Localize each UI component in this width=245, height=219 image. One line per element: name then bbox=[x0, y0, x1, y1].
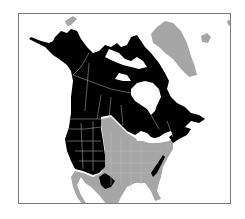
map-frame: North America range map bbox=[18, 13, 231, 204]
siberia-fragment bbox=[65, 16, 77, 26]
iceland bbox=[201, 33, 211, 43]
north-america-map bbox=[19, 14, 231, 204]
svalbard-fragment bbox=[227, 19, 231, 26]
